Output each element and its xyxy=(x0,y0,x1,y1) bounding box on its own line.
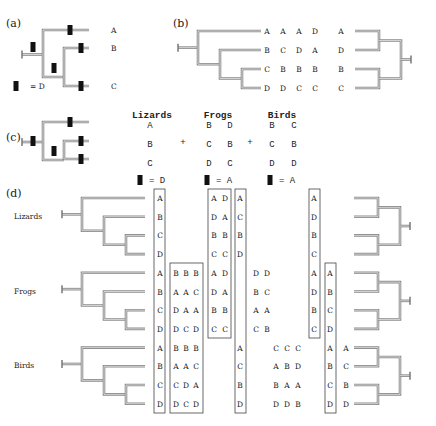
bbb-cell: D xyxy=(183,381,189,390)
branch xyxy=(126,385,145,404)
bbb-cell: C xyxy=(183,325,189,334)
legend-text: = D xyxy=(149,176,165,186)
ad-cell: C xyxy=(211,325,217,334)
acbd-cell: D xyxy=(237,400,243,409)
column-cell: A xyxy=(156,194,163,203)
legend-text: = D xyxy=(30,82,45,91)
ad-cell: B xyxy=(222,306,228,315)
branch xyxy=(378,282,400,319)
group-cell: D xyxy=(269,159,274,169)
branch xyxy=(104,292,145,320)
bbb-cell: C xyxy=(193,362,199,371)
branch xyxy=(126,310,145,329)
loose-cell: B xyxy=(284,362,290,371)
legend-text: = A xyxy=(216,176,233,186)
loose-cell: C xyxy=(273,344,279,353)
group-cell: C xyxy=(227,159,233,169)
bbb-cell: A xyxy=(182,288,189,297)
adbc-cell: A xyxy=(310,269,317,278)
ad-cell: A xyxy=(221,213,228,222)
right-cell: D xyxy=(343,400,349,409)
acbd-cell: B xyxy=(237,381,243,390)
abcd-cell: C xyxy=(327,306,333,315)
branch xyxy=(354,235,378,254)
column-cell: A xyxy=(156,269,163,278)
legend-marker-icon xyxy=(138,175,143,185)
branch xyxy=(354,385,378,404)
ad-cell: A xyxy=(210,194,217,203)
branch-inner xyxy=(64,48,89,86)
marker-icon xyxy=(31,42,36,52)
result-cell: C xyxy=(338,84,344,93)
permutation-cell: C xyxy=(312,84,318,93)
branch xyxy=(43,30,89,77)
acbd-cell: D xyxy=(237,250,243,259)
group-title-birds: Birds xyxy=(268,110,297,121)
branch xyxy=(82,348,145,381)
group-cell: D xyxy=(206,159,211,169)
ad-cell: B xyxy=(222,231,228,240)
branch-inner xyxy=(355,69,379,88)
branch-inner xyxy=(82,273,145,306)
ad-cell: D xyxy=(211,288,217,297)
branch xyxy=(64,48,89,86)
ad-cell: B xyxy=(211,306,217,315)
ad-cell: D xyxy=(222,269,228,278)
branch-inner xyxy=(378,207,400,244)
result-cell: D xyxy=(338,46,344,55)
column-cell: C xyxy=(157,231,163,240)
loose-cell: A xyxy=(294,381,301,390)
bbb-cell: C xyxy=(193,288,199,297)
permutation-cell: B xyxy=(312,65,318,74)
permutation-cell: C xyxy=(280,46,286,55)
permutation-cell: C xyxy=(296,84,302,93)
branch xyxy=(355,31,379,50)
legend-marker-icon xyxy=(205,175,210,185)
bbb-cell: C xyxy=(173,381,179,390)
ad-cell: D xyxy=(222,194,228,203)
permutation-cell: A xyxy=(263,27,270,36)
column-cell: C xyxy=(157,306,163,315)
panel-b-label: (b) xyxy=(173,17,189,30)
panel-a-label: (a) xyxy=(6,17,21,30)
branch xyxy=(220,50,261,79)
loose-cell: D xyxy=(253,269,259,278)
abcd-cell: C xyxy=(327,381,333,390)
adbc-cell: B xyxy=(311,231,317,240)
branch-inner xyxy=(82,348,145,381)
plus-sign: + xyxy=(180,138,185,148)
plus-sign: + xyxy=(247,138,252,148)
abcd-cell: A xyxy=(326,344,333,353)
branch-inner xyxy=(104,366,145,394)
ad-box xyxy=(208,189,231,338)
branch-inner xyxy=(379,41,401,79)
branch-inner xyxy=(354,385,378,404)
legend-marker-icon xyxy=(268,175,273,185)
loose-cell: B xyxy=(253,288,259,297)
acbd-cell: A xyxy=(236,194,243,203)
panel-c-label: (c) xyxy=(6,131,21,144)
permutation-cell: C xyxy=(264,65,270,74)
permutation-cell: D xyxy=(280,84,286,93)
marker-icon xyxy=(68,25,73,35)
loose-cell: B xyxy=(264,325,270,334)
loose-cell: A xyxy=(252,306,259,315)
branch-inner xyxy=(242,69,261,88)
branch xyxy=(64,141,89,159)
abcd-cell: B xyxy=(327,288,333,297)
right-cell: C xyxy=(343,362,349,371)
bbb-cell: B xyxy=(193,344,199,353)
group-cell: D xyxy=(291,159,296,169)
column-cell: B xyxy=(157,288,163,297)
column-cell: B xyxy=(157,213,163,222)
ad-cell: C xyxy=(222,325,228,334)
branch xyxy=(104,217,145,245)
group-title-lizards: Lizards xyxy=(132,110,172,121)
taxon-label-birds: Birds xyxy=(14,361,34,370)
branch xyxy=(378,207,400,244)
branch-inner xyxy=(355,31,379,50)
ad-cell: B xyxy=(211,231,217,240)
loose-cell: D xyxy=(273,400,279,409)
branch xyxy=(354,273,378,292)
abcd-cell: D xyxy=(327,325,333,334)
